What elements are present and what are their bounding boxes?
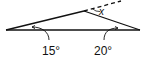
- unknown-angle-label: x: [98, 6, 105, 17]
- right-side-line: [84, 11, 140, 30]
- right-angle-label: 20°: [94, 44, 112, 58]
- left-side-line: [6, 11, 84, 30]
- left-angle-label: 15°: [42, 44, 60, 58]
- left-angle-arc: [32, 27, 49, 40]
- triangle-diagram: x 15° 20°: [0, 0, 148, 64]
